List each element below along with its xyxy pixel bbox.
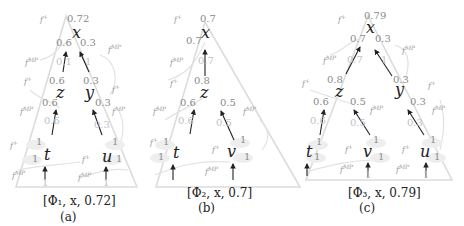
edge-weight: 0.7 bbox=[198, 55, 214, 66]
root-var-x: x bbox=[366, 18, 375, 37]
edge-weight: 0.6 bbox=[310, 115, 326, 126]
y-input: 0.3 bbox=[410, 96, 426, 107]
z-input-left: 0.6 bbox=[313, 96, 329, 107]
fmp-label: fMP bbox=[322, 54, 337, 65]
fplus-label: f+ bbox=[81, 153, 90, 164]
edge-weight: 0.5 bbox=[350, 117, 366, 128]
connector-curve bbox=[260, 120, 268, 150]
figure-b: f+ 0.7 x 0.7 fMP 0.7 f+ 0.8 z 0.6 0.5 fM… bbox=[149, 13, 300, 215]
fplus-label: f+ bbox=[427, 79, 436, 90]
var-t: t bbox=[44, 145, 51, 164]
fmp-label: fMP bbox=[395, 163, 410, 174]
root-input-left: 0.7 bbox=[350, 33, 366, 44]
fmp-label: fMP bbox=[431, 104, 446, 115]
connector-curve bbox=[155, 162, 230, 175]
var-y: y bbox=[84, 83, 95, 102]
edge-weight: 0.3 bbox=[407, 117, 423, 128]
t-input: 1 bbox=[158, 151, 164, 162]
edge-weight: 1 bbox=[42, 177, 48, 188]
sub-label: (a) bbox=[60, 210, 77, 224]
caption-formula: [Φ₂, x, 0.7] bbox=[187, 186, 252, 200]
fmp-label: fMP bbox=[242, 105, 257, 116]
z-input-right: 0.5 bbox=[220, 97, 236, 108]
root-input-right: 0.3 bbox=[80, 37, 96, 48]
v-value: 1 bbox=[373, 134, 379, 145]
fmp-label: fMP bbox=[24, 56, 39, 67]
var-t: t bbox=[173, 143, 180, 162]
z-input: 0.6 bbox=[42, 97, 58, 108]
t-value: 1 bbox=[316, 136, 322, 147]
fmp-label: fMP bbox=[19, 105, 34, 116]
fplus-label: f+ bbox=[173, 13, 182, 24]
edge-weight: 0.6 bbox=[44, 115, 60, 126]
sub-label: (b) bbox=[198, 201, 215, 215]
edge-weight: 0.5 bbox=[216, 117, 232, 128]
v-input: 1 bbox=[378, 151, 384, 162]
edge-weight: 1 bbox=[85, 56, 91, 67]
edge-weight: 1 bbox=[423, 169, 429, 180]
root-input-right: 0.3 bbox=[375, 33, 391, 44]
fplus-label: f+ bbox=[169, 77, 178, 88]
fplus-label: f+ bbox=[301, 77, 310, 88]
edge-weight: 0.6 bbox=[178, 115, 194, 126]
fplus-label: f+ bbox=[344, 143, 353, 154]
edge-weight: 0.3 bbox=[94, 119, 110, 130]
root-input-left: 0.6 bbox=[56, 37, 72, 48]
t-value: 1 bbox=[36, 136, 42, 147]
z-input-left: 0.6 bbox=[180, 97, 196, 108]
fplus-label: f+ bbox=[9, 139, 18, 150]
edge-weight: 1 bbox=[103, 177, 109, 188]
t-value: 1 bbox=[163, 136, 169, 147]
z-input-right: 0.5 bbox=[350, 96, 366, 107]
u-input: 1 bbox=[434, 151, 440, 162]
var-v: v bbox=[363, 142, 372, 161]
figure-a: f+ 0.72 x 0.6 0.3 fMP fMP 0.1 1 f+ 0.6 z… bbox=[9, 13, 137, 224]
fplus-label: f+ bbox=[211, 143, 220, 154]
caption-formula: [Φ₃, x, 0.79] bbox=[348, 186, 421, 200]
u-value: 1 bbox=[112, 136, 118, 147]
fmp-label: fMP bbox=[169, 56, 184, 67]
t-input: 1 bbox=[314, 151, 320, 162]
fmp-label: fMP bbox=[152, 105, 167, 116]
fmp-label: fMP bbox=[77, 171, 92, 182]
caption-formula: [Φ₁, x, 0.72] bbox=[43, 194, 116, 208]
root-input-left: 0.7 bbox=[186, 35, 202, 46]
fmp-label: fMP bbox=[204, 165, 219, 176]
var-z: z bbox=[334, 82, 344, 101]
t-input: 1 bbox=[32, 153, 38, 164]
v-input: 1 bbox=[244, 151, 250, 162]
fmp-label: fMP bbox=[107, 43, 122, 54]
sub-label: (c) bbox=[359, 201, 375, 215]
root-var-x: x bbox=[201, 23, 210, 42]
fplus-label: f+ bbox=[337, 13, 346, 24]
figure-c: f+ 0.79 x 0.7 0.3 fMP fMP 0.7 1 f+ 0.8 z… bbox=[301, 10, 452, 215]
var-y: y bbox=[394, 80, 405, 99]
v-value: 1 bbox=[240, 134, 246, 145]
var-u: u bbox=[102, 147, 112, 166]
fplus-label: f+ bbox=[111, 83, 120, 94]
u-value: 1 bbox=[430, 134, 436, 145]
edge-weight: 1 bbox=[365, 169, 371, 180]
diagram-canvas: f+ 0.72 x 0.6 0.3 fMP fMP 0.1 1 f+ 0.6 z… bbox=[0, 0, 464, 226]
fmp-label: fMP bbox=[339, 163, 354, 174]
fplus-label: f+ bbox=[401, 143, 410, 154]
fmp-label: fMP bbox=[111, 105, 126, 116]
fmp-label: fMP bbox=[401, 44, 416, 55]
y-input: 0.3 bbox=[95, 97, 111, 108]
u-input: 1 bbox=[116, 153, 122, 164]
var-u: u bbox=[420, 142, 430, 161]
var-v: v bbox=[227, 142, 236, 161]
fplus-label: f+ bbox=[23, 75, 32, 86]
edge-weight: 0.7 bbox=[347, 54, 363, 65]
fmp-label: fMP bbox=[369, 104, 384, 115]
var-t: t bbox=[306, 142, 313, 161]
edge-weight: 1 bbox=[381, 54, 387, 65]
fplus-label: f+ bbox=[39, 13, 48, 24]
var-z: z bbox=[199, 83, 209, 102]
edge-weight: 0.1 bbox=[56, 56, 72, 67]
